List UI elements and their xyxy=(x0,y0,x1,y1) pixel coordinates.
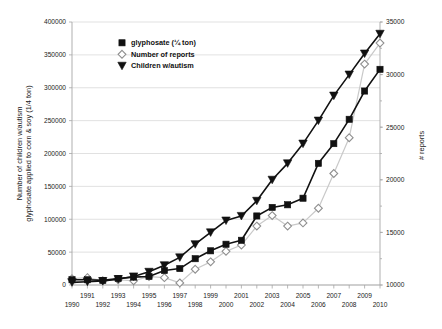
series-2 xyxy=(68,39,384,287)
chart-container: 0500001000001500002000002500003000003500… xyxy=(0,0,442,329)
y2-axis-tick-label: 25000 xyxy=(386,124,405,131)
line-chart: 0500001000001500002000002500003000003500… xyxy=(0,0,442,329)
y-axis-tick-label: 0 xyxy=(62,281,66,288)
x-axis-tick-label-upper: 1995 xyxy=(142,292,157,299)
y2-axis-tick-label: 10000 xyxy=(386,281,405,288)
y-axis-tick-label: 350000 xyxy=(44,51,66,58)
legend-item: Number of reports xyxy=(118,50,195,59)
marker-square xyxy=(223,241,229,247)
legend-label: Children w/autism xyxy=(131,61,194,70)
y2-axis-tick-label: 20000 xyxy=(386,176,405,183)
marker-diamond xyxy=(207,258,215,266)
y-axis-tick-label: 250000 xyxy=(44,117,66,124)
x-axis-tick-label-upper: 2001 xyxy=(234,292,249,299)
marker-diamond xyxy=(161,274,169,282)
marker-triangle xyxy=(118,62,126,70)
y2-axis-title: # reports xyxy=(417,131,426,160)
y-axis-tick-label: 100000 xyxy=(44,216,66,223)
legend-label: Number of reports xyxy=(131,50,195,59)
marker-square xyxy=(331,141,337,147)
marker-square xyxy=(285,202,291,208)
marker-square xyxy=(346,116,352,122)
y-axis-title-line1: Number of children w/autism xyxy=(15,107,24,201)
x-axis-tick-label-lower: 2010 xyxy=(373,301,388,308)
y-axis-tick-label: 150000 xyxy=(44,183,66,190)
y-axis-tick-label: 200000 xyxy=(44,150,66,157)
x-axis-tick-label-lower: 1990 xyxy=(65,301,80,308)
marker-diamond xyxy=(330,170,338,178)
x-axis-tick-label-upper: 1991 xyxy=(80,292,95,299)
legend-label: glyphosate (¼ ton) xyxy=(131,38,196,47)
marker-square xyxy=(238,237,244,243)
y-axis-tick-label: 300000 xyxy=(44,84,66,91)
x-axis-tick-label-upper: 2009 xyxy=(357,292,372,299)
x-axis-tick-label-lower: 1994 xyxy=(126,301,141,308)
marker-diamond xyxy=(345,134,353,142)
x-axis-tick-label-lower: 2002 xyxy=(249,301,264,308)
marker-diamond xyxy=(222,247,230,255)
x-axis-tick-label-lower: 1996 xyxy=(157,301,172,308)
marker-diamond xyxy=(268,212,276,220)
marker-triangle xyxy=(176,254,184,262)
x-axis-tick-label-lower: 2006 xyxy=(311,301,326,308)
marker-square xyxy=(362,88,368,94)
marker-square xyxy=(208,248,214,254)
x-axis-tick-label-upper: 1993 xyxy=(111,292,126,299)
marker-diamond xyxy=(118,50,126,58)
x-axis-tick-label-lower: 1992 xyxy=(95,301,110,308)
marker-square xyxy=(119,40,125,46)
x-axis-tick-label-upper: 2005 xyxy=(296,292,311,299)
legend-item: glyphosate (¼ ton) xyxy=(119,38,197,47)
y2-axis-tick-label: 30000 xyxy=(386,71,405,78)
y-axis-tick-label: 50000 xyxy=(48,249,67,256)
x-axis-tick-label-upper: 1999 xyxy=(203,292,218,299)
y-axis-title-line2: glyphosate applied to corn & soy (1/4 to… xyxy=(24,85,33,221)
marker-triangle xyxy=(330,92,338,100)
marker-square xyxy=(269,204,275,210)
marker-diamond xyxy=(284,222,292,230)
marker-square xyxy=(254,213,260,219)
marker-square xyxy=(377,66,383,72)
x-axis-tick-label-lower: 2000 xyxy=(219,301,234,308)
x-axis-tick-label-lower: 1998 xyxy=(188,301,203,308)
marker-square xyxy=(300,195,306,201)
legend: glyphosate (¼ ton)Number of reportsChild… xyxy=(118,38,197,70)
x-axis-tick-label-upper: 2003 xyxy=(265,292,280,299)
x-axis-tick-label-lower: 2004 xyxy=(280,301,295,308)
x-axis-tick-label-lower: 2008 xyxy=(342,301,357,308)
legend-item: Children w/autism xyxy=(118,61,195,70)
y2-axis-tick-label: 15000 xyxy=(386,229,405,236)
y2-axis-tick-label: 35000 xyxy=(386,18,405,25)
x-axis-tick-label-upper: 1997 xyxy=(172,292,187,299)
y-axis-tick-label: 400000 xyxy=(44,18,66,25)
marker-square xyxy=(192,256,198,262)
marker-square xyxy=(315,160,321,166)
x-axis-tick-label-upper: 2007 xyxy=(326,292,341,299)
marker-square xyxy=(177,265,183,271)
